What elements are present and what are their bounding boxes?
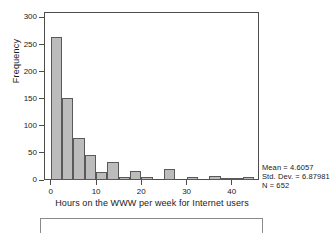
histogram-bar bbox=[107, 162, 118, 180]
y-tick-label: 0 bbox=[33, 174, 37, 185]
histogram-bar bbox=[164, 169, 175, 180]
x-tick-mark bbox=[50, 180, 51, 185]
histogram-bar bbox=[96, 172, 107, 180]
bottom-panel-partial bbox=[40, 218, 263, 233]
histogram-figure: Frequency 050100150200250300 010203040 H… bbox=[0, 0, 334, 233]
statistics-annotation: Mean = 4.6057 Std. Dev. = 6.87981 N = 65… bbox=[262, 163, 330, 191]
histogram-bar bbox=[141, 177, 152, 180]
y-tick-label: 250 bbox=[24, 39, 37, 50]
stat-n: N = 652 bbox=[262, 181, 330, 190]
y-tick-label: 50 bbox=[28, 147, 37, 158]
histogram-bar bbox=[130, 171, 141, 180]
stat-stddev: Std. Dev. = 6.87981 bbox=[262, 172, 330, 181]
x-tick-label: 10 bbox=[82, 187, 110, 196]
histogram-bar bbox=[232, 178, 243, 180]
y-tick-label: 150 bbox=[24, 93, 37, 104]
y-tick-label: 300 bbox=[24, 11, 37, 22]
x-tick-label: 20 bbox=[127, 187, 155, 196]
x-tick-mark bbox=[141, 180, 142, 185]
y-tick-label: 100 bbox=[24, 120, 37, 131]
x-tick-label: 40 bbox=[218, 187, 246, 196]
histogram-bar bbox=[73, 138, 84, 180]
histogram-bar bbox=[51, 37, 62, 180]
x-axis-title: Hours on the WWW per week for Internet u… bbox=[16, 198, 288, 208]
x-tick-mark bbox=[186, 180, 187, 185]
histogram-bar bbox=[243, 177, 254, 180]
histogram-bar bbox=[85, 155, 96, 180]
x-tick-label: 30 bbox=[173, 187, 201, 196]
y-axis-title: Frequency bbox=[11, 11, 21, 111]
histogram-bar bbox=[187, 177, 198, 180]
histogram-bar bbox=[119, 177, 130, 180]
y-tick-label: 200 bbox=[24, 66, 37, 77]
stat-mean: Mean = 4.6057 bbox=[262, 163, 330, 172]
histogram-bars bbox=[44, 12, 259, 180]
x-tick-mark bbox=[231, 180, 232, 185]
histogram-bar bbox=[62, 98, 73, 180]
x-tick-label: 0 bbox=[37, 187, 65, 196]
x-tick-mark bbox=[96, 180, 97, 185]
histogram-bar bbox=[209, 176, 220, 180]
histogram-bar bbox=[221, 178, 232, 180]
